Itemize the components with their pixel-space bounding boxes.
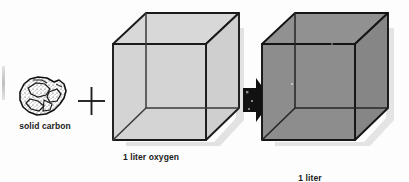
carbon-lump-icon (20, 77, 66, 115)
carbon-dioxide-label-line1: 1 liter (252, 173, 368, 182)
plus-operator-icon (78, 87, 105, 115)
reaction-diagram: solid carbon 1 liter oxygen 1 liter carb… (0, 0, 409, 182)
solid-carbon-label: solid carbon (0, 121, 90, 132)
oxygen-cube-label: 1 liter oxygen (97, 152, 205, 163)
carbon-dioxide-label: 1 liter carbon dioxide (252, 152, 368, 182)
oxygen-cube-icon (113, 13, 244, 146)
carbon-dioxide-cube-icon (262, 13, 394, 146)
